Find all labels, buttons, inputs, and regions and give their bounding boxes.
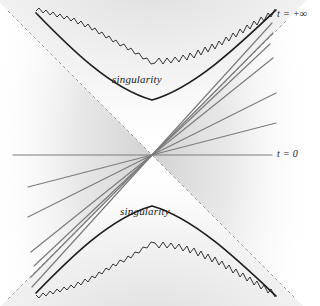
diagram-canvas — [0, 0, 320, 306]
t-infinity-label: t = +∞ — [277, 9, 307, 19]
t-zero-label: t = 0 — [277, 149, 298, 159]
singularity-label-top: singularity — [112, 74, 162, 85]
spacetime-diagram-figure: singularity singularity t = +∞ t = 0 — [0, 0, 320, 306]
singularity-label-bottom: singularity — [120, 206, 170, 217]
